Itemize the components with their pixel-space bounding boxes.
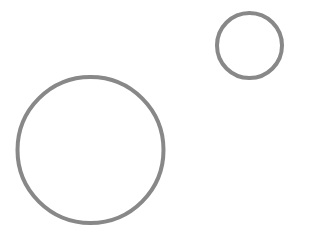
small-circle bbox=[217, 13, 282, 78]
circles-drawing bbox=[0, 0, 325, 237]
drawing-canvas bbox=[0, 0, 325, 237]
large-circle bbox=[18, 77, 164, 223]
